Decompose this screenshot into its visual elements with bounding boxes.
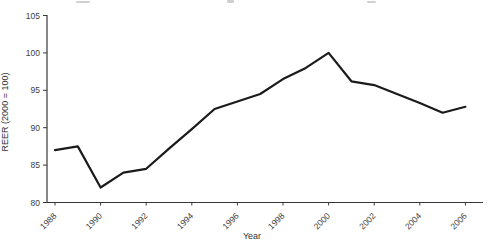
y-tick-label: 85: [31, 160, 41, 170]
y-axis-ticks: 80859095100105: [26, 11, 47, 208]
y-axis-title: REER (2000 = 100): [0, 73, 10, 152]
figure-canvas: 80859095100105 1988199019921994199619982…: [0, 0, 488, 249]
y-tick-label: 100: [26, 48, 40, 58]
x-tick-label: 2004: [403, 211, 424, 232]
x-tick-label: 1990: [84, 211, 105, 232]
cropped-text-fragment: [367, 1, 376, 3]
y-tick-label: 105: [26, 11, 40, 21]
x-tick-label: 1998: [266, 211, 287, 232]
reer-series-line: [55, 53, 465, 188]
y-tick-label: 80: [31, 198, 41, 208]
x-tick-label: 2000: [312, 211, 333, 232]
x-axis-ticks: 1988199019921994199619982000200220042006: [38, 203, 469, 232]
y-tick-label: 95: [31, 85, 41, 95]
x-tick-label: 1996: [220, 211, 241, 232]
y-tick-label: 90: [31, 123, 41, 133]
x-tick-label: 1988: [38, 211, 59, 232]
cropped-text-fragment: [227, 0, 234, 3]
reer-line-chart: 80859095100105 1988199019921994199619982…: [0, 0, 488, 249]
x-tick-label: 1994: [175, 211, 196, 232]
x-tick-label: 2002: [357, 211, 378, 232]
x-tick-label: 1992: [129, 211, 150, 232]
x-tick-label: 2006: [448, 211, 469, 232]
x-axis-title: Year: [243, 231, 261, 241]
cropped-text-fragment: [76, 1, 90, 3]
